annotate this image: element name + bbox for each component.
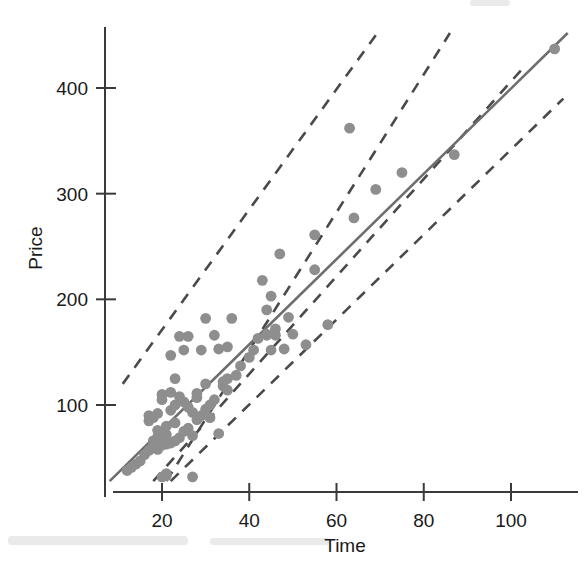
regression-line <box>110 33 568 481</box>
data-point <box>209 330 220 341</box>
y-tick-label-200: 200 <box>56 289 88 310</box>
y-tick-label-300: 300 <box>56 184 88 205</box>
data-point <box>196 345 207 356</box>
data-point <box>161 468 172 479</box>
data-point <box>170 418 181 429</box>
data-point <box>209 394 220 405</box>
data-point <box>205 412 216 423</box>
x-axis-title: Time <box>324 535 366 556</box>
data-point <box>287 329 298 340</box>
data-point <box>235 361 246 372</box>
data-point <box>349 213 360 224</box>
data-point <box>322 319 333 330</box>
data-point <box>165 350 176 361</box>
data-point <box>397 167 408 178</box>
data-point <box>187 471 198 482</box>
band-line-3 <box>171 99 564 482</box>
data-point <box>231 370 242 381</box>
x-tick-label-20: 20 <box>151 510 172 531</box>
data-point <box>257 275 268 286</box>
data-point <box>266 345 277 356</box>
data-point <box>301 339 312 350</box>
data-point <box>192 392 203 403</box>
y-axis-title: Price <box>25 226 46 269</box>
data-point <box>178 345 189 356</box>
data-point <box>200 378 211 389</box>
data-point <box>344 123 355 134</box>
data-point <box>274 249 285 260</box>
data-point <box>309 229 320 240</box>
data-point <box>187 430 198 441</box>
data-point <box>222 385 233 396</box>
y-tick-label-100: 100 <box>56 395 88 416</box>
x-tick-label-60: 60 <box>326 510 347 531</box>
x-axis-ticks: 20406080100 <box>151 483 526 531</box>
data-point <box>370 184 381 195</box>
data-point <box>222 341 233 352</box>
data-point <box>213 428 224 439</box>
data-point <box>152 408 163 419</box>
y-axis-ticks: 100200300400 <box>56 78 116 416</box>
data-point <box>200 313 211 324</box>
data-point <box>183 331 194 342</box>
x-tick-label-40: 40 <box>239 510 260 531</box>
data-point <box>270 330 281 341</box>
x-tick-label-80: 80 <box>413 510 434 531</box>
y-tick-label-400: 400 <box>56 78 88 99</box>
data-point <box>170 373 181 384</box>
scatter-points <box>122 44 560 483</box>
scatter-plot-figure: 100200300400 20406080100 Time Price <box>0 0 584 563</box>
plot-canvas: 100200300400 20406080100 Time Price <box>0 0 584 563</box>
fit-line <box>110 33 568 481</box>
data-point <box>309 264 320 275</box>
data-point <box>279 344 290 355</box>
x-tick-label-100: 100 <box>495 510 527 531</box>
data-point <box>283 312 294 323</box>
data-point <box>248 345 259 356</box>
data-point <box>449 149 460 160</box>
data-point <box>266 291 277 302</box>
data-point <box>261 305 272 316</box>
data-point <box>549 44 560 55</box>
data-point <box>226 313 237 324</box>
